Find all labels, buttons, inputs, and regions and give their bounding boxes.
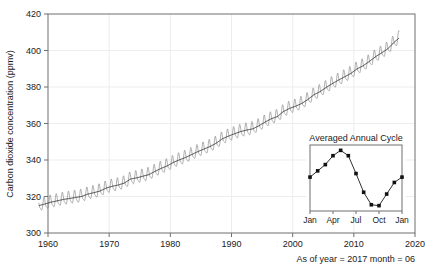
x-tick-label: 1970: [99, 239, 119, 249]
x-tick-label: 1990: [221, 239, 241, 249]
inset-data-point: [362, 190, 366, 194]
y-axis-title: Carbon dioxide concentration (ppmv): [5, 50, 15, 198]
inset-x-tick-label: Oct: [372, 215, 386, 225]
x-tick-label: 1980: [160, 239, 180, 249]
inset-x-axis: JanAprJulOctJan: [303, 211, 409, 225]
inset-x-tick-label: Jan: [303, 215, 317, 225]
inset-data-point: [377, 204, 381, 208]
co2-chart-figure: 300320340360380400420 196019701980199020…: [0, 0, 440, 276]
x-tick-label: 2010: [344, 239, 364, 249]
inset-data-point: [370, 203, 374, 207]
inset-data-point: [354, 172, 358, 176]
y-tick-label: 300: [26, 228, 41, 238]
inset-x-tick-label: Apr: [326, 215, 339, 225]
inset-data-point: [347, 154, 351, 158]
inset-data-point: [385, 192, 389, 196]
inset-data-point: [316, 169, 320, 173]
inset-title: Averaged Annual Cycle: [309, 133, 402, 143]
inset-data-point: [393, 181, 397, 185]
y-tick-label: 380: [26, 82, 41, 92]
inset-data-point: [308, 175, 312, 179]
x-tick-label: 2000: [283, 239, 303, 249]
inset-x-tick-label: Jul: [351, 215, 362, 225]
x-tick-label: 2020: [405, 239, 425, 249]
inset-data-point: [324, 163, 328, 167]
as-of-caption: As of year = 2017 month = 06: [296, 254, 415, 264]
inset-x-tick-label: Jan: [395, 215, 409, 225]
y-tick-label: 320: [26, 192, 41, 202]
inset-data-point: [339, 149, 343, 153]
x-axis: 1960197019801990200020102020: [38, 233, 425, 249]
y-tick-label: 420: [26, 9, 41, 19]
x-tick-label: 1960: [38, 239, 58, 249]
y-tick-label: 360: [26, 119, 41, 129]
chart-canvas: 300320340360380400420 196019701980199020…: [0, 0, 440, 276]
inset-data-point: [400, 175, 404, 179]
inset-annual-cycle: Averaged Annual Cycle JanAprJulOctJan: [303, 133, 409, 225]
inset-background: [306, 143, 406, 211]
inset-data-point: [331, 154, 335, 158]
y-tick-label: 340: [26, 155, 41, 165]
y-tick-label: 400: [26, 46, 41, 56]
